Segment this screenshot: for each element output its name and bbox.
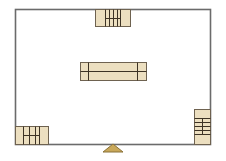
right-shelf-unit[interactable] [195, 110, 211, 145]
floor-plan [0, 0, 226, 161]
bottom-left-shelf-unit[interactable] [16, 127, 49, 145]
center-table[interactable] [81, 63, 147, 81]
floor-plan-svg [0, 0, 226, 161]
top-shelf-unit[interactable] [96, 10, 131, 27]
